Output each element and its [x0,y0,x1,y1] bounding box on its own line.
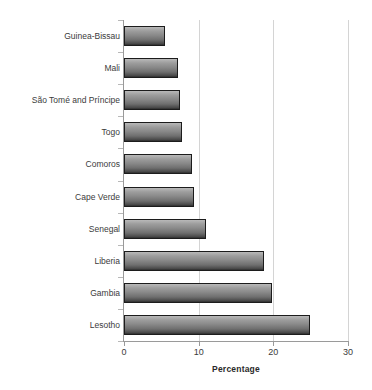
x-axis-tick [124,342,125,346]
x-axis-line [124,341,349,342]
bar-gambia[interactable] [124,283,272,303]
x-axis-tick [273,342,274,346]
y-axis-label-sao-tome-and-principe: São Tomé and Príncipe [4,95,120,105]
x-axis-tick-label-20: 20 [258,347,288,357]
bar-row [124,277,348,309]
x-axis-tick [199,342,200,346]
y-axis-label-lesotho: Lesotho [4,320,120,330]
y-axis-label-gambia: Gambia [4,288,120,298]
y-axis-labels: Guinea-Bissau Mali São Tomé and Príncipe… [0,20,120,341]
bar-row [124,245,348,277]
bar-comoros[interactable] [124,154,192,174]
bar-senegal[interactable] [124,219,206,239]
bar-row [124,213,348,245]
bar-row [124,309,348,341]
y-axis-label-mali: Mali [4,63,120,73]
y-axis-label-senegal: Senegal [4,224,120,234]
bar-row [124,20,348,52]
bar-series [124,20,348,341]
y-axis-label-togo: Togo [4,127,120,137]
bar-row [124,84,348,116]
y-axis-label-guinea-bissau: Guinea-Bissau [4,31,120,41]
x-axis-tick-label-10: 10 [184,347,214,357]
x-axis-tick-label-0: 0 [109,347,139,357]
y-axis-tick [118,341,123,342]
x-axis-tick [348,342,349,346]
bar-row [124,148,348,180]
bar-guinea-bissau[interactable] [124,26,165,46]
bar-row [124,181,348,213]
bar-mali[interactable] [124,58,178,78]
gridline-30 [348,20,349,341]
bar-liberia[interactable] [124,251,264,271]
bar-chart: Guinea-Bissau Mali São Tomé and Príncipe… [0,0,372,390]
bar-togo[interactable] [124,122,182,142]
y-axis-label-liberia: Liberia [4,256,120,266]
bar-row [124,116,348,148]
y-axis-label-comoros: Comoros [4,159,120,169]
bar-cape-verde[interactable] [124,187,194,207]
bar-row [124,52,348,84]
y-axis-label-cape-verde: Cape Verde [4,192,120,202]
bar-lesotho[interactable] [124,315,310,335]
x-axis-title: Percentage [124,364,348,374]
x-axis-tick-label-30: 30 [333,347,363,357]
bar-sao-tome-and-principe[interactable] [124,90,180,110]
